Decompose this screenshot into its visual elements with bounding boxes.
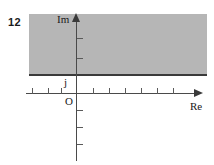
imaginary-axis-tick: [77, 144, 83, 145]
imaginary-axis-tick: [77, 127, 83, 128]
imaginary-axis-line: [76, 22, 77, 161]
imaginary-axis-tick: [77, 38, 83, 39]
real-axis-tick: [125, 88, 126, 94]
real-axis-label: Re: [190, 100, 202, 112]
imaginary-axis-tick: [77, 110, 83, 111]
real-axis-tick: [93, 88, 94, 94]
origin-label: O: [65, 95, 73, 107]
real-axis-arrow-icon: [194, 89, 203, 97]
imaginary-axis-tick: [77, 58, 83, 59]
real-axis-tick: [157, 88, 158, 94]
imaginary-axis-label: Im: [57, 13, 69, 25]
real-axis-tick: [141, 88, 142, 94]
boundary-value-label: j: [64, 76, 67, 88]
problem-number-label: 12: [8, 16, 21, 28]
argand-diagram-figure: 12 Im Re j O: [0, 0, 214, 165]
real-axis-tick: [109, 88, 110, 94]
real-axis-tick: [61, 88, 62, 94]
real-axis-tick: [173, 88, 174, 94]
region-boundary-line: [29, 74, 207, 76]
real-axis-tick: [32, 88, 33, 94]
shaded-region: [29, 14, 207, 76]
real-axis-tick: [48, 88, 49, 94]
real-axis-line: [26, 93, 196, 94]
imaginary-axis-arrow-icon: [72, 13, 80, 22]
